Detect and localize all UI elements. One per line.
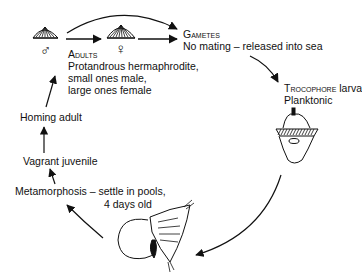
vagrant-juvenile-label: Vagrant juvenile xyxy=(23,155,98,167)
trocophore-description: Planktonic xyxy=(284,94,362,106)
arrow-homing-to-adults xyxy=(46,76,55,107)
arrow-metamorphosis-to-vagrant xyxy=(50,169,55,184)
adults-line-2: small ones male, xyxy=(68,72,199,84)
trocophore-label: Trocophore larva Planktonic xyxy=(284,82,362,106)
arrow-trocophore-to-settling xyxy=(196,175,281,255)
arc-arrow-male-to-gametes xyxy=(67,15,177,33)
gametes-description: No mating – released into sea xyxy=(183,40,323,52)
trocophore-heading-suffix: larva xyxy=(336,82,362,94)
gametes-label: Gametes No mating – released into sea xyxy=(183,28,323,52)
male-symbol: ♂ xyxy=(40,42,51,57)
adults-line-3: large ones female xyxy=(68,84,199,96)
trocophore-larva-icon xyxy=(276,108,318,163)
arrow-gametes-to-trocophore xyxy=(250,56,278,82)
metamorphosis-line-1: Metamorphosis – settle in pools, xyxy=(15,185,166,197)
adults-heading: Adults xyxy=(68,48,199,60)
metamorphosis-line-2: 4 days old xyxy=(104,198,152,210)
settling-larva-icon xyxy=(118,200,194,272)
arrow-settling-to-metamorphosis xyxy=(67,205,103,238)
female-limpet-icon xyxy=(107,25,135,38)
gametes-heading: Gametes xyxy=(183,28,323,40)
male-limpet-icon xyxy=(33,27,58,38)
adults-line-1: Protandrous hermaphrodite, xyxy=(68,60,199,72)
adults-label: Adults Protandrous hermaphrodite, small … xyxy=(68,48,199,96)
homing-adult-label: Homing adult xyxy=(20,111,82,123)
trocophore-heading: Trocophore xyxy=(284,82,336,94)
